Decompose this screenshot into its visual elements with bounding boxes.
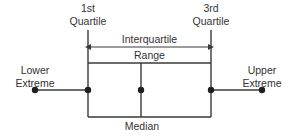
interquartile-range-label-line1: Interquartile [89,33,210,46]
third-quartile-label: 3rd Quartile [171,2,251,27]
lower-extreme-label: Lower Extreme [0,64,70,89]
lower-extreme-label-line1: Lower [0,64,70,77]
upper-extreme-label: Upper Extreme [228,64,296,89]
upper-extreme-label-line2: Extreme [228,77,296,90]
third-quartile-label-line2: Quartile [171,15,251,28]
third-quartile-label-line1: 3rd [171,2,251,15]
interquartile-range-label-line2: Range [89,49,210,62]
upper-extreme-label-line1: Upper [228,64,296,77]
lower-extreme-label-line2: Extreme [0,77,70,90]
first-quartile-label-line1: 1st [48,2,128,15]
first-quartile-label-line2: Quartile [48,15,128,28]
first-quartile-label: 1st Quartile [48,2,128,27]
median-point [138,87,144,93]
first-quartile-point [85,87,91,93]
third-quartile-point [208,87,214,93]
median-label: Median [102,120,182,133]
